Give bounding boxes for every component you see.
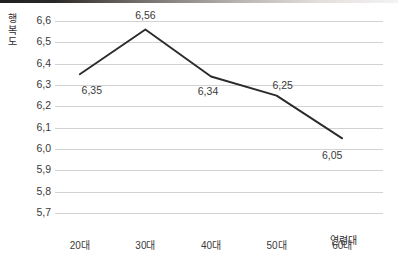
gridline [55,213,383,214]
data-point-label: 6,35 [82,84,102,96]
y-axis-tick-label: 6,1 [17,121,51,133]
chart-figure: 행 복 도 연령대 6,66,56,46,36,26,16,05,95,85,7… [0,0,398,257]
series-line-happiness [55,21,383,213]
y-axis-tick-label: 6,3 [17,78,51,90]
scan-edge-band [0,0,398,3]
y-axis-tick-label: 6,2 [17,99,51,111]
series-polyline [80,30,342,139]
y-axis-title-char-2: 복 [4,25,20,37]
data-point-label: 6,25 [272,79,292,91]
y-axis-tick-label: 5,8 [17,185,51,197]
x-axis-tick-label: 20대 [50,237,110,252]
y-axis-tick-label: 5,7 [17,206,51,218]
y-axis-tick-label: 6,5 [17,35,51,47]
x-axis-tick-label: 40대 [181,237,241,252]
x-axis-tick-label: 50대 [247,237,307,252]
y-axis-tick-label: 5,9 [17,163,51,175]
data-point-label: 6,34 [198,85,218,97]
y-axis-tick-label: 6,0 [17,142,51,154]
y-axis-tick-label: 6,4 [17,57,51,69]
y-axis-tick-label: 6,6 [17,14,51,26]
data-point-label: 6,05 [322,149,342,161]
data-point-label: 6,56 [135,9,155,21]
x-axis-tick-label: 60대 [312,237,372,252]
x-axis-tick-label: 30대 [115,237,175,252]
plot-area: 6,356,566,346,256,05 20대30대40대50대60대 [55,21,383,213]
